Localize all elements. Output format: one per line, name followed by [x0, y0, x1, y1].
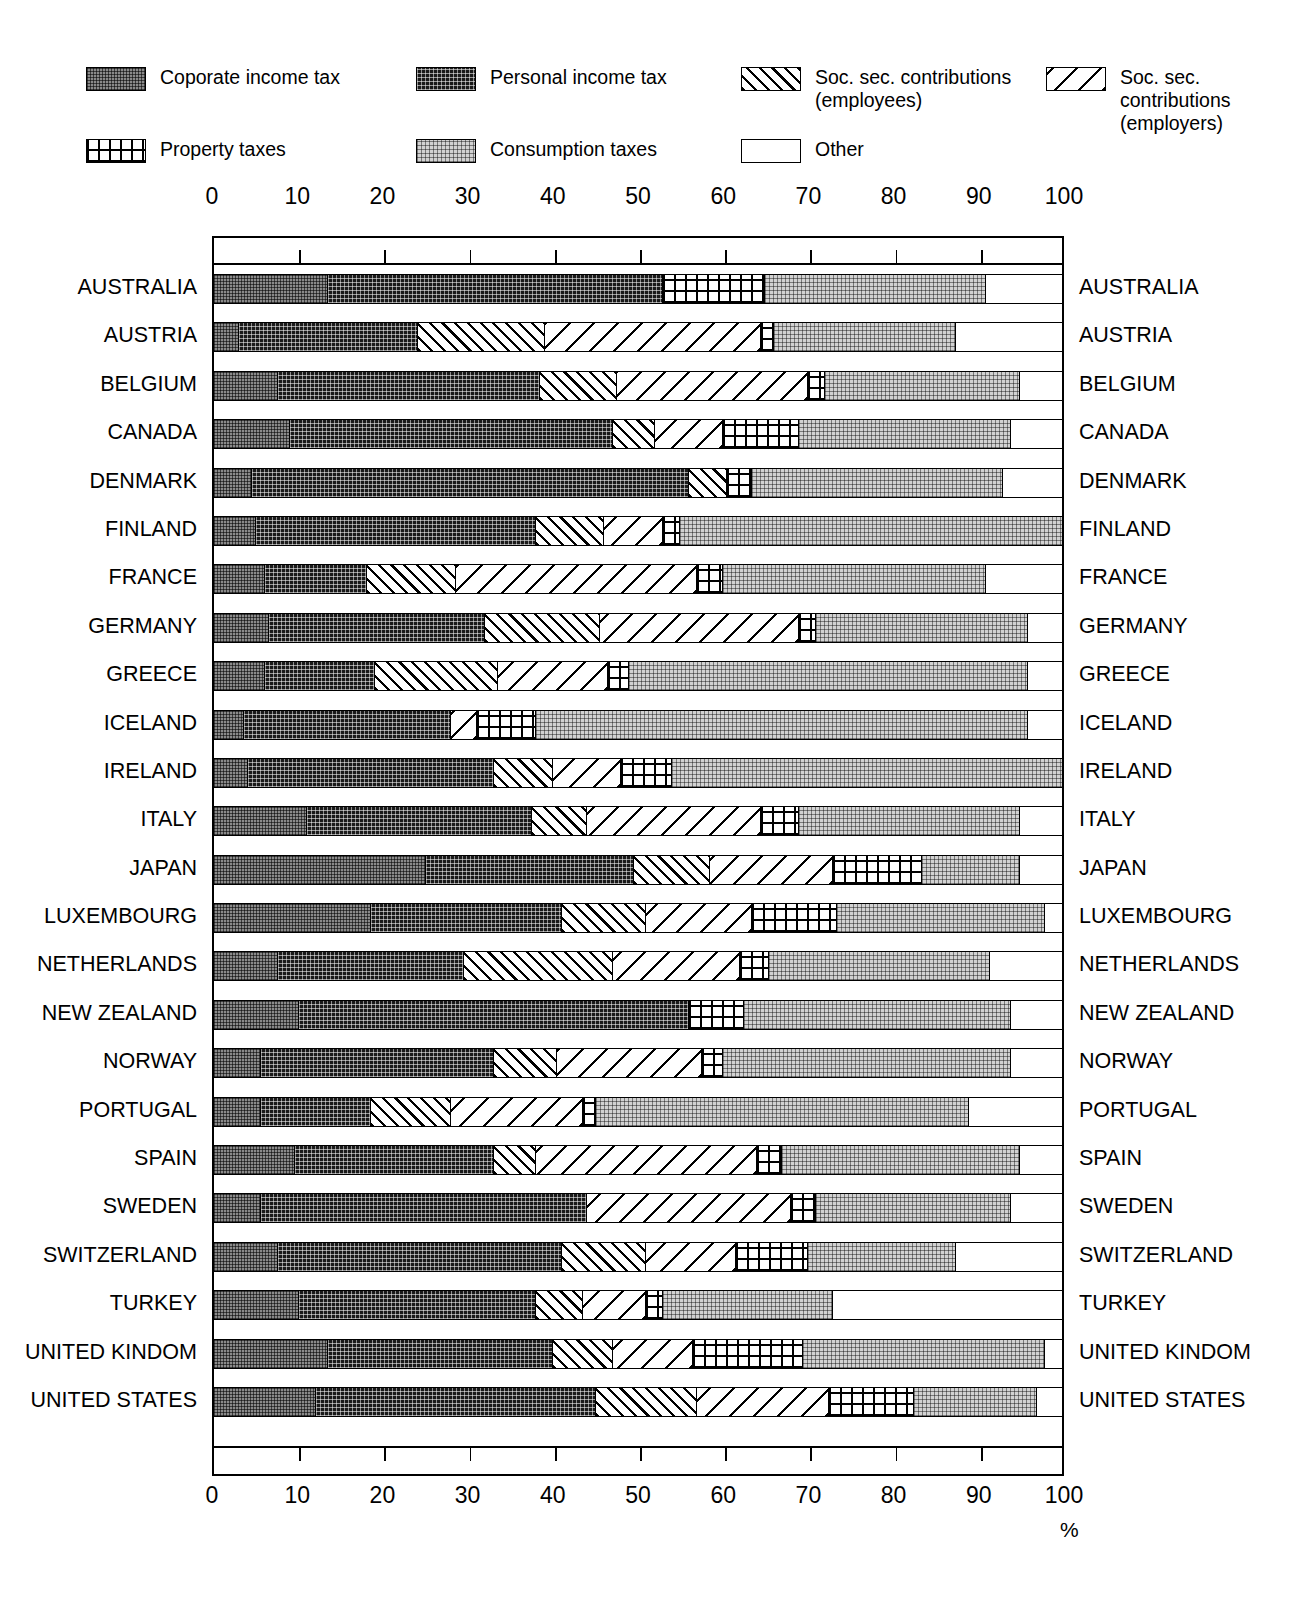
category-label-right: UNITED STATES [1079, 1376, 1289, 1424]
legend-swatch-personal-icon [416, 67, 476, 91]
stacked-bar[interactable] [214, 419, 1062, 449]
bar-row [214, 749, 1062, 797]
bar-segment-corporate [214, 1291, 299, 1319]
bar-row [214, 991, 1062, 1039]
bar-row [214, 1233, 1062, 1281]
bar-segment-corporate [214, 275, 328, 303]
bar-segment-ss_employers [583, 1291, 647, 1319]
axis-tick-label: 100 [1045, 183, 1083, 210]
bar-segment-consumption [765, 275, 985, 303]
stacked-bar[interactable] [214, 758, 1062, 788]
stacked-bar[interactable] [214, 468, 1062, 498]
legend-item-corporate[interactable]: Coporate income tax [86, 66, 340, 91]
bar-segment-other [833, 1291, 1062, 1319]
bar-segment-property [752, 904, 837, 932]
category-label-left: GERMANY [0, 602, 197, 650]
bar-segment-ss_employees [536, 1291, 583, 1319]
bar-segment-other [990, 952, 1062, 980]
bar-segment-corporate [214, 1049, 261, 1077]
bar-segment-property [693, 1340, 803, 1368]
bar-segment-other [1028, 614, 1062, 642]
stacked-bar[interactable] [214, 903, 1062, 933]
bar-segment-other [1011, 1194, 1062, 1222]
stacked-bar[interactable] [214, 1193, 1062, 1223]
bar-segment-property [727, 469, 752, 497]
bar-segment-personal [252, 469, 689, 497]
stacked-bar[interactable] [214, 274, 1062, 304]
bar-segment-ss_employers [451, 1098, 582, 1126]
bar-segment-other [969, 1098, 1062, 1126]
bar-segment-ss_employees [540, 372, 616, 400]
legend-label-ss_employers: Soc. sec. contributions (employers) [1120, 66, 1231, 135]
bar-row [214, 265, 1062, 313]
stacked-bar[interactable] [214, 1000, 1062, 1030]
stacked-bar[interactable] [214, 613, 1062, 643]
stacked-bar[interactable] [214, 1339, 1062, 1369]
legend-item-personal[interactable]: Personal income tax [416, 66, 667, 91]
legend-item-ss_employers[interactable]: Soc. sec. contributions (employers) [1046, 66, 1231, 135]
bar-row [214, 604, 1062, 652]
stacked-bar[interactable] [214, 710, 1062, 740]
bar-segment-ss_employers [498, 662, 608, 690]
bar-segment-personal [299, 1291, 536, 1319]
stacked-bar[interactable] [214, 516, 1062, 546]
bar-segment-consumption [922, 856, 1020, 884]
legend-item-ss_employees[interactable]: Soc. sec. contributions (employees) [741, 66, 1011, 112]
legend-item-other[interactable]: Other [741, 138, 864, 163]
stacked-bar[interactable] [214, 564, 1062, 594]
bar-row [214, 313, 1062, 361]
stacked-bar[interactable] [214, 661, 1062, 691]
bar-segment-other [956, 323, 1062, 351]
bar-container [214, 265, 1062, 1446]
stacked-bar[interactable] [214, 371, 1062, 401]
stacked-bar[interactable] [214, 855, 1062, 885]
legend-item-consumption[interactable]: Consumption taxes [416, 138, 657, 163]
stacked-bar[interactable] [214, 951, 1062, 981]
axis-tick-label: 60 [710, 1482, 736, 1509]
axis-tick-label: 60 [710, 183, 736, 210]
stacked-bar[interactable] [214, 1097, 1062, 1127]
bar-row [214, 942, 1062, 990]
bar-segment-ss_employees [613, 420, 655, 448]
stacked-bar[interactable] [214, 1145, 1062, 1175]
bar-segment-consumption [816, 614, 1028, 642]
stacked-bar[interactable] [214, 1242, 1062, 1272]
bar-segment-other [1003, 469, 1062, 497]
bar-segment-consumption [782, 1146, 1019, 1174]
category-label-left: BELGIUM [0, 360, 197, 408]
bar-segment-corporate [214, 1243, 278, 1271]
bar-segment-personal [278, 952, 465, 980]
bar-segment-ss_employees [634, 856, 710, 884]
category-label-left: GREECE [0, 650, 197, 698]
stacked-bar[interactable] [214, 806, 1062, 836]
category-label-right: ICELAND [1079, 699, 1289, 747]
category-label-left: PORTUGAL [0, 1086, 197, 1134]
bar-segment-consumption [596, 1098, 969, 1126]
axis-tick-label: 30 [455, 183, 481, 210]
bar-segment-consumption [536, 711, 1028, 739]
axis-tick-mark [640, 1448, 642, 1461]
bar-row [214, 410, 1062, 458]
stacked-bar[interactable] [214, 1290, 1062, 1320]
axis-tick-label: 0 [206, 183, 219, 210]
legend-swatch-other-icon [741, 139, 801, 163]
stacked-bar[interactable] [214, 1387, 1062, 1417]
bar-segment-ss_employers [604, 517, 663, 545]
axis-tick-label: 0 [206, 1482, 219, 1509]
category-label-left: ICELAND [0, 699, 197, 747]
category-label-left: FRANCE [0, 553, 197, 601]
bar-row [214, 701, 1062, 749]
bar-segment-property [663, 517, 680, 545]
category-label-left: UNITED STATES [0, 1376, 197, 1424]
bar-segment-other [986, 275, 1062, 303]
category-label-right: LUXEMBOURG [1079, 892, 1289, 940]
bar-segment-personal [244, 711, 452, 739]
stacked-bar[interactable] [214, 322, 1062, 352]
bar-row [214, 1378, 1062, 1426]
stacked-bar[interactable] [214, 1048, 1062, 1078]
legend-item-property[interactable]: Property taxes [86, 138, 286, 163]
bar-segment-consumption [672, 759, 1062, 787]
legend-swatch-ss_employers-icon [1046, 67, 1106, 91]
category-label-left: ITALY [0, 795, 197, 843]
bar-row [214, 1281, 1062, 1329]
